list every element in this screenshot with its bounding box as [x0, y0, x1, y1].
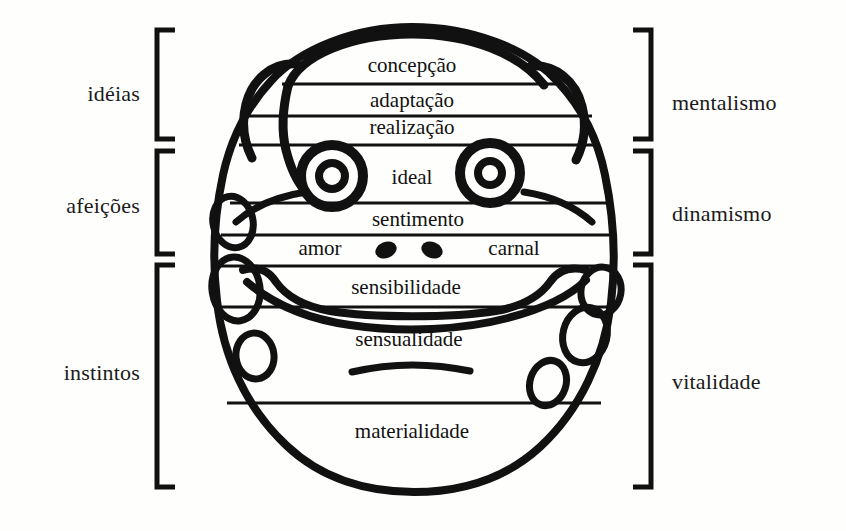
side-label-dinamismo: dinamismo — [672, 203, 772, 225]
left-eye-pupil — [319, 163, 345, 189]
zone-label-ideal-text: ideal — [392, 165, 433, 189]
side-label-ideias: idéias — [0, 83, 140, 105]
side-label-vitalidade: vitalidade — [672, 371, 761, 393]
left-brackets — [157, 30, 175, 487]
zone-label-materialidade: materialidade — [355, 421, 469, 442]
bracket-left-afeicoes — [157, 151, 175, 254]
diagram-page: idéias afeições instintos mentalismo din… — [0, 0, 846, 531]
left-organ-lower — [234, 331, 277, 381]
side-label-vitalidade-text: vitalidade — [672, 369, 761, 394]
zone-label-sentimento: sentimento — [372, 209, 464, 230]
right-brackets — [633, 30, 651, 487]
side-label-ideias-text: idéias — [87, 81, 140, 106]
right-cheek-curve — [524, 192, 592, 222]
zone-label-carnal: carnal — [488, 238, 539, 259]
zone-label-sensualidade: sensualidade — [355, 329, 462, 350]
zone-label-sensualidade-text: sensualidade — [355, 327, 462, 351]
zone-label-sensibilidade-text: sensibilidade — [351, 275, 461, 299]
bracket-left-ideias — [157, 30, 175, 139]
zone-label-sentimento-text: sentimento — [372, 207, 464, 231]
zone-label-realizacao: realização — [369, 117, 454, 138]
zone-label-carnal-text: carnal — [488, 236, 539, 260]
side-label-instintos: instintos — [0, 362, 140, 384]
zone-label-sensibilidade: sensibilidade — [351, 277, 461, 298]
left-eye-outer — [301, 145, 363, 207]
left-nostril — [373, 238, 399, 261]
right-eye-pupil — [478, 161, 502, 185]
zone-label-amor: amor — [298, 238, 341, 259]
zone-label-realizacao-text: realização — [369, 115, 454, 139]
side-label-afeicoes-text: afeições — [66, 193, 140, 218]
side-label-instintos-text: instintos — [64, 360, 140, 385]
zone-label-ideal: ideal — [392, 167, 433, 188]
bracket-left-instintos — [157, 265, 175, 487]
side-label-mentalismo: mentalismo — [672, 92, 777, 114]
side-label-mentalismo-text: mentalismo — [672, 90, 777, 115]
zone-label-adaptacao-text: adaptação — [370, 88, 454, 112]
mouth-smile-line — [352, 365, 470, 372]
phrenological-head-illustration — [0, 0, 846, 531]
zone-label-amor-text: amor — [298, 236, 341, 260]
bracket-right-mentalismo — [633, 30, 651, 139]
right-eye-outer — [460, 143, 520, 203]
nostrils-group — [373, 238, 445, 261]
side-label-afeicoes: afeições — [0, 195, 140, 217]
bracket-right-dinamismo — [633, 151, 651, 254]
zone-label-materialidade-text: materialidade — [355, 419, 469, 443]
right-nostril — [419, 238, 445, 261]
bracket-right-vitalidade — [633, 265, 651, 487]
side-label-dinamismo-text: dinamismo — [672, 201, 772, 226]
zone-label-concepcao-text: concepção — [368, 53, 457, 77]
zone-label-adaptacao: adaptação — [370, 90, 454, 111]
zone-label-concepcao: concepção — [368, 55, 457, 76]
